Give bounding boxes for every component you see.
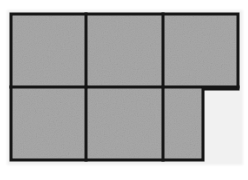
polyomino-figure: Shaded polyomino grid figure A scanned l… <box>0 0 248 180</box>
figure-canvas: Shaded polyomino grid figure A scanned l… <box>0 0 248 180</box>
